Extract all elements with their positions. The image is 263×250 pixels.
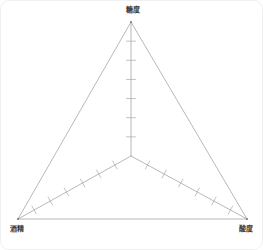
vertex-marker-top [130,21,132,23]
triangle-perimeter [18,22,247,219]
axis-tick-right-3 [179,179,183,187]
axis-ticks-group [32,41,233,214]
chart-card: 糖度 酒精 酸度 [0,0,263,250]
vertex-label-left: 酒精 [10,226,24,233]
axis-tick-left-1 [113,161,117,169]
vertex-marker-left [17,218,19,220]
axis-tick-right-2 [162,170,166,178]
axis-tick-left-4 [64,188,68,196]
axis-tick-right-1 [145,161,149,169]
axis-tick-left-5 [48,197,52,205]
axis-tick-left-2 [97,170,101,178]
axis-tick-right-6 [228,206,232,214]
axis-tick-left-6 [32,206,36,214]
axis-line-left [18,156,131,219]
axes-group [18,22,247,219]
axis-tick-right-5 [212,197,216,205]
axis-tick-right-4 [195,188,199,196]
balance-triangle-chart [1,1,263,250]
vertex-marker-right [246,218,248,220]
axis-line-right [131,156,247,219]
triangle-outline [18,22,247,219]
vertex-label-top: 糖度 [1,7,263,14]
vertex-label-right: 酸度 [239,226,253,233]
axis-tick-left-3 [80,179,84,187]
vertex-markers [17,21,248,220]
